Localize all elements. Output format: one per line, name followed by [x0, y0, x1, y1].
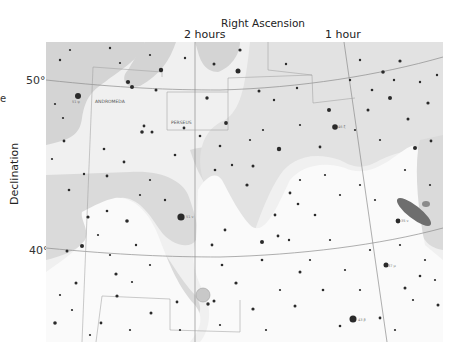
svg-text:37 μ: 37 μ	[388, 264, 397, 268]
constellation-label-andromeda: ANDROMEDA	[95, 99, 126, 104]
nebula-small	[422, 201, 430, 207]
svg-text:51 ν: 51 ν	[186, 215, 194, 219]
star-chart: Right Ascension 2 hours 1 hour 50° 40° D…	[0, 0, 473, 362]
svg-text:51 ψ: 51 ψ	[72, 100, 81, 104]
svg-text:43 β: 43 β	[358, 318, 366, 322]
svg-text:46 ξ: 46 ξ	[338, 125, 346, 129]
open-cluster	[196, 288, 210, 302]
svg-text:35 ν: 35 ν	[401, 219, 409, 223]
sky-map: 51 ν51 ψ43 β 46 ξ35 ν37 μ ANDROMEDA PERS…	[0, 0, 473, 362]
constellation-label-perseus: PERSEUS	[171, 120, 192, 125]
